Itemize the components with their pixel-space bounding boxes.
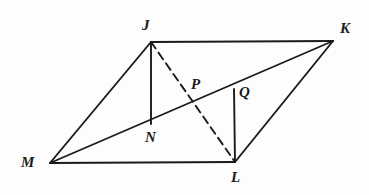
vertex-label-J: J bbox=[142, 18, 150, 33]
segment-diagonal-JL bbox=[151, 42, 235, 162]
vertex-label-L: L bbox=[231, 170, 240, 185]
segment-side-KL bbox=[235, 41, 333, 162]
vertex-label-M: M bbox=[21, 155, 34, 170]
vertex-label-P: P bbox=[191, 77, 200, 92]
segment-side-MJ bbox=[50, 42, 151, 163]
vertex-label-K: K bbox=[340, 21, 350, 36]
segment-diagonal-MK bbox=[50, 41, 333, 163]
vertex-label-N: N bbox=[145, 130, 156, 145]
figure-canvas bbox=[0, 0, 369, 195]
segment-side-JK bbox=[151, 41, 333, 42]
segment-perpendicular-QL bbox=[234, 89, 235, 162]
vertex-label-Q: Q bbox=[239, 85, 250, 100]
geometry-figure: J K M L N P Q bbox=[0, 0, 369, 195]
segment-side-LM bbox=[50, 162, 235, 163]
